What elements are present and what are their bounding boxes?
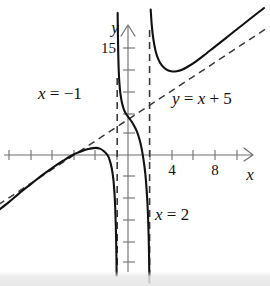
- left-vertical-asymptote-label: x = −1: [37, 84, 82, 103]
- curve-left-branch: [0, 148, 117, 276]
- curve-right-branch: [151, 8, 264, 71]
- right-vertical-asymptote-label: x = 2: [154, 205, 189, 224]
- x-tick-label-8: 8: [211, 162, 219, 178]
- y-axis-label: y: [109, 18, 119, 37]
- slant-asymptote-line: [0, 27, 268, 205]
- graph-canvas: 15 4 8 x y x = −1 y = x + 5 x = 2: [0, 0, 270, 286]
- x-tick-label-4: 4: [168, 162, 176, 178]
- axes-group: [4, 25, 253, 272]
- graph-figure: 15 4 8 x y x = −1 y = x + 5 x = 2: [0, 0, 270, 286]
- x-axis-label: x: [245, 165, 254, 184]
- page-bleed-band: [0, 271, 270, 286]
- slant-asymptote-label: y = x + 5: [170, 89, 232, 108]
- y-tick-label-15: 15: [101, 40, 116, 56]
